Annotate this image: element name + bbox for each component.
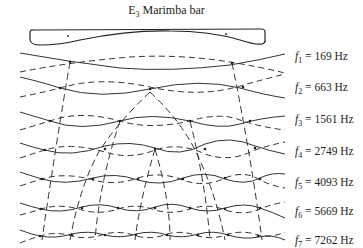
mode-7-shape xyxy=(20,230,285,243)
support-point-right xyxy=(225,33,227,35)
mode-7-label: f7 = 7262 Hz xyxy=(295,234,354,248)
mode-2-label: f2 = 663 Hz xyxy=(295,81,348,96)
mode-1-label: f1 = 169 Hz xyxy=(295,50,348,65)
mode-4-label: f4 = 2749 Hz xyxy=(295,145,354,160)
mode-6-shape xyxy=(20,202,285,218)
mode-4-shape xyxy=(20,140,285,158)
marimba-bar-outline xyxy=(30,29,265,45)
mode-5-shape xyxy=(20,172,285,188)
mode-6-label: f6 = 5669 Hz xyxy=(295,205,354,220)
mode-1-shape xyxy=(20,53,285,73)
mode-3-label: f3 = 1561 Hz xyxy=(295,113,354,128)
support-point-left xyxy=(67,35,69,37)
mode-5-label: f5 = 4093 Hz xyxy=(295,176,354,191)
